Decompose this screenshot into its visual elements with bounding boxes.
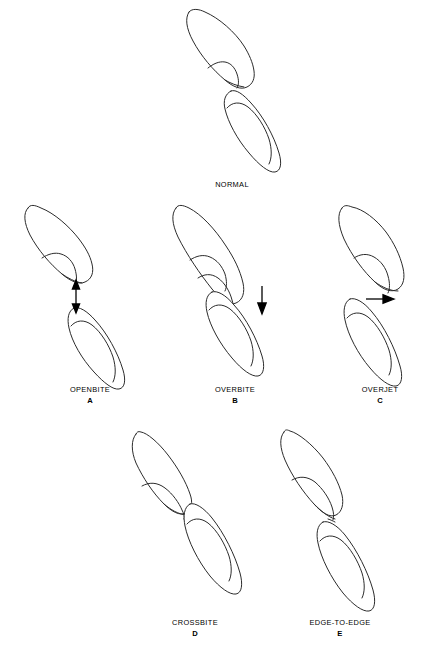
caption-crossbite-letter: D <box>115 629 275 639</box>
lower-incisor-outline <box>224 91 280 173</box>
caption-overjet: OVERJET C <box>300 385 432 405</box>
overbite-direction-arrow <box>258 286 266 314</box>
crossbite-occlusion-drawing <box>120 428 250 628</box>
upper-incisor-outline <box>281 430 343 516</box>
panel-overbite: OVERBITE B <box>160 204 290 404</box>
caption-overbite-letter: B <box>155 396 315 406</box>
panel-edge-to-edge: EDGE-TO-EDGE E <box>268 428 398 628</box>
caption-crossbite: CROSSBITE D <box>115 618 275 638</box>
occlusion-figure: NORMAL OPENBITE A <box>0 0 432 660</box>
lower-incisor-outline <box>68 308 125 390</box>
upper-incisor-outline <box>187 9 255 88</box>
edge-contact-point <box>328 519 335 522</box>
overbite-occlusion-drawing <box>160 204 290 404</box>
caption-crossbite-label: CROSSBITE <box>172 618 218 627</box>
caption-overjet-letter: C <box>300 396 432 406</box>
lower-incisor-outline <box>184 504 242 594</box>
panel-openbite: OPENBITE A <box>12 204 142 404</box>
caption-edge-to-edge: EDGE-TO-EDGE E <box>260 618 420 638</box>
caption-overbite-label: OVERBITE <box>215 385 255 394</box>
caption-openbite: OPENBITE A <box>10 385 170 405</box>
normal-occlusion-drawing <box>175 8 295 183</box>
caption-edge-to-edge-label: EDGE-TO-EDGE <box>309 618 370 627</box>
lower-incisor-outline <box>206 292 264 377</box>
overjet-direction-arrow <box>366 295 394 303</box>
caption-normal-label: NORMAL <box>215 180 249 189</box>
caption-normal: NORMAL <box>152 180 312 191</box>
lower-incisor-outline <box>317 522 375 612</box>
caption-overbite: OVERBITE B <box>155 385 315 405</box>
panel-normal: NORMAL <box>175 8 295 183</box>
caption-openbite-letter: A <box>10 396 170 406</box>
openbite-occlusion-drawing <box>12 204 142 404</box>
upper-incisor-outline <box>173 205 244 303</box>
panel-overjet: OVERJET C <box>320 204 432 404</box>
edge-to-edge-occlusion-drawing <box>268 428 398 628</box>
lower-incisor-outline <box>344 299 402 387</box>
upper-incisor-outline <box>339 206 404 291</box>
caption-openbite-label: OPENBITE <box>70 385 110 394</box>
panel-crossbite: CROSSBITE D <box>120 428 250 628</box>
caption-overjet-label: OVERJET <box>362 385 399 394</box>
upper-incisor-outline <box>25 205 93 283</box>
openbite-gap-arrow <box>72 280 79 313</box>
upper-incisor-outline <box>132 432 191 514</box>
overjet-occlusion-drawing <box>320 204 432 404</box>
caption-edge-to-edge-letter: E <box>260 629 420 639</box>
